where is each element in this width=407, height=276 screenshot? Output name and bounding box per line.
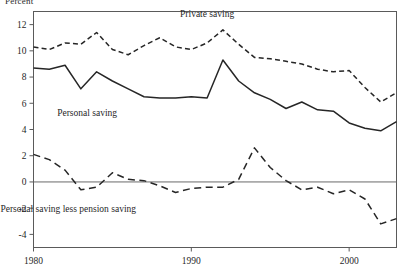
y-axis-tick-label: 6 bbox=[22, 99, 27, 109]
y-axis-tick-label: 12 bbox=[17, 20, 27, 30]
y-axis-tick-label: 8 bbox=[22, 72, 27, 82]
series-label-private-saving: Private saving bbox=[180, 9, 234, 19]
series-label-personal-saving: Personal saving bbox=[57, 108, 117, 118]
series-label-personal-saving-less-pension-saving: Personal saving less pension saving bbox=[0, 204, 136, 214]
chart-canvas: -4-2024681012198019902000Private savingP… bbox=[0, 0, 407, 276]
y-axis-tick-label: 0 bbox=[22, 177, 27, 187]
y-axis-tick-label: 2 bbox=[22, 151, 27, 161]
y-axis-tick-label: -4 bbox=[19, 230, 27, 240]
x-axis-tick-label: 2000 bbox=[340, 256, 359, 266]
saving-rates-line-chart: Percent -4-2024681012198019902000Private… bbox=[0, 0, 407, 276]
y-axis-tick-label: 10 bbox=[17, 46, 27, 56]
x-axis-tick-label: 1990 bbox=[182, 256, 201, 266]
series-line-private-saving bbox=[34, 30, 397, 102]
x-axis-tick-label: 1980 bbox=[24, 256, 43, 266]
y-axis-tick-label: 4 bbox=[22, 125, 27, 135]
